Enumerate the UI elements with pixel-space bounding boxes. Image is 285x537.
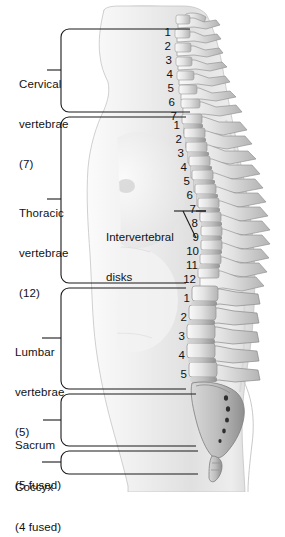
cervical-number-2: 2 xyxy=(155,41,171,53)
label-lumbar-line1: Lumbar xyxy=(15,346,64,359)
thoracic-number-11: 11 xyxy=(178,260,198,272)
label-lumbar-line2: vertebrae xyxy=(15,386,64,399)
cervical-number-1: 1 xyxy=(155,27,171,39)
lumbar-number-1: 1 xyxy=(174,293,190,305)
label-coccyx-line2: (4 fused) xyxy=(15,521,61,534)
lumbar-number-3: 3 xyxy=(169,331,185,343)
label-thoracic: Thoracic vertebrae (12) xyxy=(19,181,68,326)
thoracic-number-12: 12 xyxy=(176,274,196,286)
thoracic-number-10: 10 xyxy=(179,246,199,258)
label-sacrum-line1: Sacrum xyxy=(15,439,61,452)
thoracic-number-4: 4 xyxy=(171,162,187,174)
thoracic-number-1: 1 xyxy=(164,120,180,132)
lumbar-number-5: 5 xyxy=(171,369,187,381)
thoracic-number-7: 7 xyxy=(180,204,196,216)
label-ivd-line2: disks xyxy=(106,271,174,284)
cervical-number-4: 4 xyxy=(157,69,173,81)
lumbar-number-2: 2 xyxy=(171,312,187,324)
label-cervical-line3: (7) xyxy=(19,158,68,171)
thoracic-number-5: 5 xyxy=(174,176,190,188)
label-thoracic-line3: (12) xyxy=(19,287,68,300)
label-coccyx: Coccyx (4 fused) xyxy=(15,455,61,537)
cervical-number-3: 3 xyxy=(156,55,172,67)
label-coccyx-line1: Coccyx xyxy=(15,481,61,494)
label-cervical-line2: vertebrae xyxy=(19,118,68,131)
cervical-number-6: 6 xyxy=(159,97,175,109)
label-cervical-line1: Cervical xyxy=(19,78,68,91)
thoracic-number-2: 2 xyxy=(166,134,182,146)
thoracic-number-3: 3 xyxy=(168,148,184,160)
label-thoracic-line1: Thoracic xyxy=(19,207,68,220)
label-cervical: Cervical vertebrae (7) xyxy=(19,52,68,197)
thoracic-number-9: 9 xyxy=(183,232,199,244)
label-thoracic-line2: vertebrae xyxy=(19,247,68,260)
thoracic-number-6: 6 xyxy=(177,190,193,202)
lumbar-number-4: 4 xyxy=(169,350,185,362)
label-intervertebral-disks: Intervertebral disks xyxy=(106,205,174,311)
lumbar-vertebrae-bones xyxy=(187,286,260,382)
cervical-number-5: 5 xyxy=(158,83,174,95)
label-ivd-line1: Intervertebral xyxy=(106,231,174,244)
thoracic-number-8: 8 xyxy=(182,218,198,230)
